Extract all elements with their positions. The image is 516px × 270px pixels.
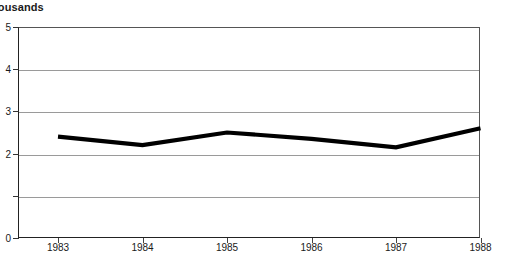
y-axis-tick-mark [13, 196, 19, 197]
x-axis-tick-label: 1984 [131, 242, 153, 253]
y-axis-tick-label: 0 [0, 233, 11, 244]
x-axis-tick-mark [481, 238, 482, 243]
x-axis-tick-mark [143, 238, 144, 243]
x-axis-tick-mark [58, 238, 59, 243]
x-axis-tick-label: 1985 [216, 242, 238, 253]
gridline-y [19, 155, 479, 156]
x-axis-tick-mark [396, 238, 397, 243]
y-axis-tick-mark [13, 111, 19, 112]
x-axis-tick-label: 1983 [47, 242, 69, 253]
gridline-y [19, 197, 479, 198]
y-axis-tick-label: 5 [0, 22, 11, 33]
gridline-y [19, 112, 479, 113]
x-axis-tick-mark [312, 238, 313, 243]
line-chart: housands 02345198319841985198619871988 [0, 0, 516, 270]
y-axis-tick-mark [13, 154, 19, 155]
y-axis-tick-mark [13, 27, 19, 28]
y-axis-tick-label: 4 [0, 64, 11, 75]
x-axis-tick-label: 1988 [469, 242, 491, 253]
axis-unit-caption: housands [0, 1, 44, 13]
plot-area [18, 27, 480, 238]
y-axis-tick-label: 2 [0, 148, 11, 159]
y-axis-tick-label: 3 [0, 106, 11, 117]
gridline-y [19, 70, 479, 71]
x-axis-tick-label: 1986 [300, 242, 322, 253]
x-axis-tick-mark [227, 238, 228, 243]
y-axis-tick-mark [13, 69, 19, 70]
x-axis-tick-label: 1987 [385, 242, 407, 253]
y-axis-tick-mark [13, 238, 19, 239]
